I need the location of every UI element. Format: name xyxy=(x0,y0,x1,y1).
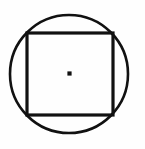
figure-svg xyxy=(0,0,145,149)
geometric-figure-canvas xyxy=(0,0,145,149)
center-point-dot xyxy=(67,71,71,75)
